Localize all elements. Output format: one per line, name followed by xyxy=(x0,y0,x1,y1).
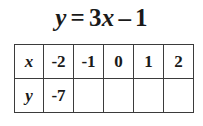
xy-value-table: x -2 -1 0 1 2 y -7 xyxy=(14,44,194,113)
table-body: x -2 -1 0 1 2 y -7 xyxy=(15,45,194,113)
equation-left-variable: y xyxy=(55,4,66,32)
equation-term: 3x xyxy=(89,4,114,32)
table-row: x -2 -1 0 1 2 xyxy=(15,45,194,79)
equation-coefficient: 3 xyxy=(89,4,102,31)
equation-right-variable: x xyxy=(102,4,115,31)
y-value-cell-4[interactable] xyxy=(134,79,164,113)
x-value-cell-3[interactable]: 0 xyxy=(104,45,134,79)
y-value-cell-5[interactable] xyxy=(164,79,194,113)
y-value-cell-2[interactable] xyxy=(74,79,104,113)
y-value-cell-1[interactable]: -7 xyxy=(44,79,74,113)
table-row: y -7 xyxy=(15,79,194,113)
row-header-x: x xyxy=(15,45,44,79)
equation-constant: 1 xyxy=(135,4,148,32)
x-value-cell-1[interactable]: -2 xyxy=(44,45,74,79)
y-value-cell-3[interactable] xyxy=(104,79,134,113)
row-header-y: y xyxy=(15,79,44,113)
equation-heading: y = 3x – 1 xyxy=(0,1,203,35)
worksheet-canvas: y = 3x – 1 x -2 -1 0 1 2 y -7 xyxy=(0,0,203,126)
x-value-cell-4[interactable]: 1 xyxy=(134,45,164,79)
x-value-cell-5[interactable]: 2 xyxy=(164,45,194,79)
equation-equals-sign: = xyxy=(67,4,89,32)
equation-minus-sign: – xyxy=(114,4,135,32)
x-value-cell-2[interactable]: -1 xyxy=(74,45,104,79)
